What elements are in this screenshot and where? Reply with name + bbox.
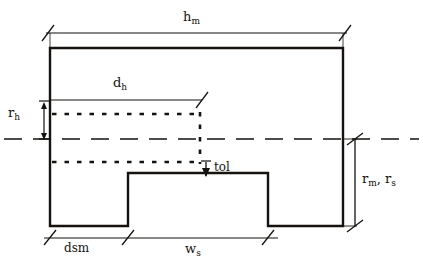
label-d-h: dh bbox=[113, 76, 127, 89]
label-dsm-base: dsm bbox=[64, 241, 89, 255]
tol-arrow-group bbox=[201, 161, 211, 177]
hole-boundary-group bbox=[52, 112, 201, 164]
label-h-m-sub: m bbox=[191, 16, 200, 26]
rh-dimension-group bbox=[39, 101, 49, 140]
label-w-s-base: w bbox=[185, 241, 196, 256]
label-tol-base: tol bbox=[214, 160, 230, 174]
label-dsm: dsm bbox=[64, 242, 89, 254]
label-w-s-sub: s bbox=[196, 248, 201, 258]
magnet-outline-path bbox=[50, 48, 343, 226]
label-tol: tol bbox=[214, 161, 230, 173]
label-r-s-sub: s bbox=[391, 178, 396, 188]
label-r-m-r-s: rm, rs bbox=[362, 172, 396, 185]
dh-dimension-group bbox=[50, 92, 208, 108]
label-r-h: rh bbox=[8, 106, 20, 119]
label-d-h-sub: h bbox=[121, 82, 127, 92]
label-w-s: ws bbox=[185, 242, 201, 255]
label-r-h-sub: h bbox=[14, 112, 20, 122]
hm-dimension-group bbox=[42, 25, 351, 48]
label-r-m-r-s-separator: , bbox=[377, 171, 385, 186]
rh-top-arrowhead bbox=[41, 102, 47, 109]
rm-rs-dimension-group bbox=[343, 133, 363, 232]
diagram-canvas bbox=[0, 0, 423, 276]
label-r-m-sub: m bbox=[368, 178, 377, 188]
label-h-m: hm bbox=[183, 10, 200, 23]
technical-diagram: hm dh rh tol rm, rs dsm ws bbox=[0, 0, 423, 276]
